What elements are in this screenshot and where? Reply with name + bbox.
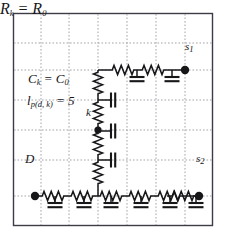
circuit-diagram-svg (0, 0, 227, 239)
node-label-s2: s2 (196, 152, 205, 166)
node-dot-s1 (181, 66, 189, 74)
annotation-path-length: lp(d, k) = 5 (27, 93, 75, 109)
annotation-resistance: Rk = R0 (0, 0, 46, 18)
annotation-capacitance: Ck = C0 (28, 71, 69, 87)
node-label-s1: s1 (185, 40, 194, 54)
node-label-d: D (25, 151, 34, 167)
node-dot-s2 (195, 192, 203, 200)
node-dot-d (31, 192, 39, 200)
figure-canvas: Rk = R0 Ck = C0 lp(d, k) = 5 D k s1 s2 (0, 0, 227, 239)
node-dot-k (94, 126, 101, 133)
node-label-k: k (86, 106, 91, 118)
